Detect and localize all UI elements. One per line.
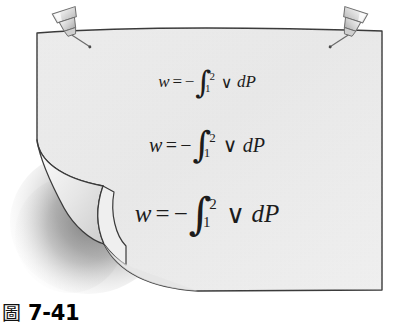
integral-lower-limit: 1 [204, 146, 211, 159]
equation-small-minus: − [185, 72, 195, 92]
integral-limits: 2 1 [209, 131, 216, 159]
equation-medium-differential: dP [243, 134, 265, 157]
equation-medium-lhs: w [149, 134, 163, 157]
equation-medium: w = − ∫ 2 1 ∨ dP [0, 131, 406, 160]
equation-medium-equals: = [166, 134, 177, 157]
cjk-figure-character-icon: 圖 [2, 304, 21, 323]
equation-large: w = − ∫ 2 1 ∨ dP [0, 196, 406, 231]
integral-lower-limit: 1 [203, 215, 211, 230]
figure-caption: 圖 7-41 [2, 301, 79, 325]
equation-large-differential: dP [252, 200, 280, 228]
equation-medium-minus: − [180, 134, 191, 157]
equation-large-minus: − [174, 200, 188, 228]
equation-small-lhs: w [158, 72, 170, 92]
equation-medium-integrand: ∨ [223, 133, 238, 157]
equation-large-integrand: ∨ [226, 199, 245, 229]
figure-number: 7-41 [28, 301, 79, 325]
equation-small-integrand: ∨ [221, 73, 233, 92]
integral-limits: 2 1 [209, 71, 215, 95]
integral-upper-limit: 2 [209, 131, 216, 144]
equation-large-lhs: w [135, 200, 152, 228]
equation-small: w = − ∫ 2 1 ∨ dP [0, 70, 406, 95]
integral-symbol-small: ∫ 2 1 [195, 70, 215, 95]
integral-upper-limit: 2 [209, 71, 215, 82]
integral-symbol-medium: ∫ 2 1 [192, 131, 215, 160]
integral-upper-limit: 2 [209, 197, 217, 212]
integral-lower-limit: 1 [205, 83, 211, 94]
equation-small-differential: dP [237, 72, 256, 92]
equation-large-equals: = [156, 200, 170, 228]
figure-container: w = − ∫ 2 1 ∨ dP w = − ∫ [0, 0, 406, 335]
equation-small-equals: = [172, 72, 182, 92]
integral-symbol-large: ∫ 2 1 [189, 196, 217, 231]
integral-limits: 2 1 [209, 197, 217, 229]
